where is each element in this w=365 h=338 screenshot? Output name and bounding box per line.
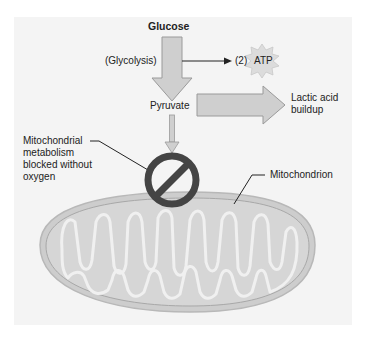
blocked-label-line1: Mitochondrial [23, 135, 82, 147]
mitochondrion-shape [40, 192, 315, 312]
atp-label: ATP [254, 55, 273, 67]
glucose-label: Glucose [148, 20, 189, 32]
pyruvate-down-arrow [165, 115, 179, 153]
blocked-label-line3: blocked without [23, 159, 92, 171]
lactic-acid-arrow [197, 86, 285, 124]
atp-count-label: (2) [235, 55, 247, 67]
lactic-acid-label-line1: Lactic acid [291, 92, 338, 104]
glycolysis-label: (Glycolysis) [105, 55, 157, 67]
lactic-acid-label-line2: buildup [291, 104, 323, 116]
blocked-label-line2: metabolism [23, 147, 74, 159]
glycolysis-arrow [152, 37, 192, 101]
mitochondrion-label: Mitochondrion [270, 169, 333, 181]
pyruvate-label: Pyruvate [150, 100, 189, 112]
atp-arrow [182, 58, 232, 65]
blocked-label-line4: oxygen [23, 171, 55, 183]
